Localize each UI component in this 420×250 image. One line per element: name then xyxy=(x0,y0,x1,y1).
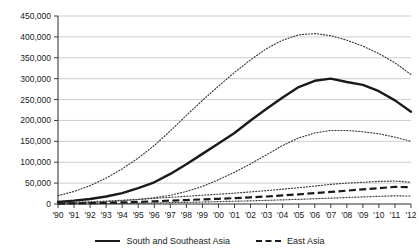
x-axis-tick-label: '08 xyxy=(341,210,352,220)
y-axis-tick-label: 350,000 xyxy=(20,53,51,63)
y-axis-tick-label: 200,000 xyxy=(20,115,51,125)
x-axis-tick-label: '11 xyxy=(390,210,401,220)
x-axis-tick-label: '00 xyxy=(213,210,224,220)
x-axis-tick-label: '92 xyxy=(85,210,96,220)
chart-legend: South and Southeast Asia East Asia xyxy=(0,236,420,246)
x-axis-tick-label: '98 xyxy=(181,210,192,220)
y-axis-tick-label: 0 xyxy=(46,199,51,209)
chart-plot: 050,000100,000150,000200,000250,000300,0… xyxy=(0,0,420,250)
x-axis-tick-label: '02 xyxy=(245,210,256,220)
y-axis-tick-label: 400,000 xyxy=(20,32,51,42)
x-axis-tick-label: '04 xyxy=(277,210,288,220)
x-axis-tick-label: '97 xyxy=(165,210,176,220)
y-axis-tick-label: 150,000 xyxy=(20,136,51,146)
dashed-line-swatch-icon xyxy=(256,240,281,242)
series-line-east-asia-upper-bound xyxy=(58,181,411,203)
x-axis-tick-label: '06 xyxy=(309,210,320,220)
chart-container: 050,000100,000150,000200,000250,000300,0… xyxy=(0,0,420,250)
solid-line-swatch-icon xyxy=(95,240,120,242)
y-axis-tick-label: 250,000 xyxy=(20,95,51,105)
legend-label: South and Southeast Asia xyxy=(126,236,230,246)
x-axis-tick-label: '95 xyxy=(133,210,144,220)
y-axis-tick-label: 300,000 xyxy=(20,74,51,84)
y-axis-tick-label: 100,000 xyxy=(20,157,51,167)
x-axis-tick-label: '99 xyxy=(197,210,208,220)
x-axis-tick-label: '01 xyxy=(229,210,240,220)
legend-label: East Asia xyxy=(287,236,325,246)
legend-item-south-and-southeast-asia: South and Southeast Asia xyxy=(95,236,230,246)
y-axis-tick-label: 50,000 xyxy=(25,178,51,188)
x-axis-tick-label: '10 xyxy=(373,210,384,220)
legend-item-east-asia: East Asia xyxy=(256,236,325,246)
x-axis-tick-label: '09 xyxy=(357,210,368,220)
x-axis-tick-label: '93 xyxy=(101,210,112,220)
x-axis-tick-label: '05 xyxy=(293,210,304,220)
x-axis-tick-label: '12 xyxy=(405,210,416,220)
x-axis-tick-label: '96 xyxy=(149,210,160,220)
x-axis-tick-label: '94 xyxy=(117,210,128,220)
x-axis-tick-label: '90 xyxy=(52,210,63,220)
y-axis-tick-label: 450,000 xyxy=(20,11,51,21)
x-axis-tick-label: '03 xyxy=(261,210,272,220)
x-axis-tick-label: '07 xyxy=(325,210,336,220)
x-axis-tick-label: '91 xyxy=(69,210,80,220)
